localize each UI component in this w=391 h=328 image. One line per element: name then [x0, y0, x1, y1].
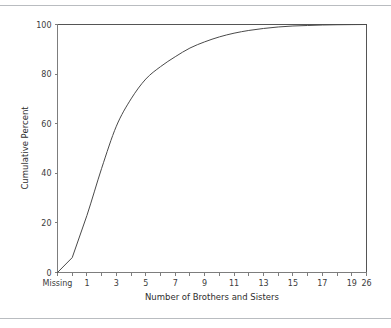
cumulative-percent-curve: [58, 25, 367, 273]
chart-figure: 020406080100 Missing13579111315171926 Nu…: [0, 0, 391, 328]
x-tick-label: 15: [288, 279, 298, 288]
y-axis-ticks: 020406080100: [36, 21, 57, 278]
x-tick-label: 5: [143, 279, 148, 288]
x-tick-label: 13: [258, 279, 268, 288]
x-axis-ticks: Missing13579111315171926: [43, 273, 372, 288]
y-tick-label: 100: [36, 21, 51, 30]
cumulative-percent-chart: 020406080100 Missing13579111315171926 Nu…: [0, 0, 391, 328]
x-tick-label: 19: [347, 279, 357, 288]
x-tick-label: 11: [229, 279, 239, 288]
y-tick-label: 40: [41, 169, 51, 178]
plot-frame: [58, 25, 367, 273]
x-tick-label: Missing: [43, 279, 73, 288]
x-tick-label: 7: [173, 279, 178, 288]
x-tick-label: 9: [202, 279, 207, 288]
x-axis-title: Number of Brothers and Sisters: [145, 292, 280, 302]
y-axis-title: Cumulative Percent: [20, 106, 30, 190]
x-tick-label: 26: [361, 279, 371, 288]
y-tick-label: 60: [41, 120, 51, 129]
x-tick-label: 17: [317, 279, 327, 288]
y-tick-label: 0: [46, 269, 51, 278]
y-tick-label: 80: [41, 70, 51, 79]
y-tick-label: 20: [41, 219, 51, 228]
x-tick-label: 3: [114, 279, 119, 288]
x-tick-label: 1: [84, 279, 89, 288]
